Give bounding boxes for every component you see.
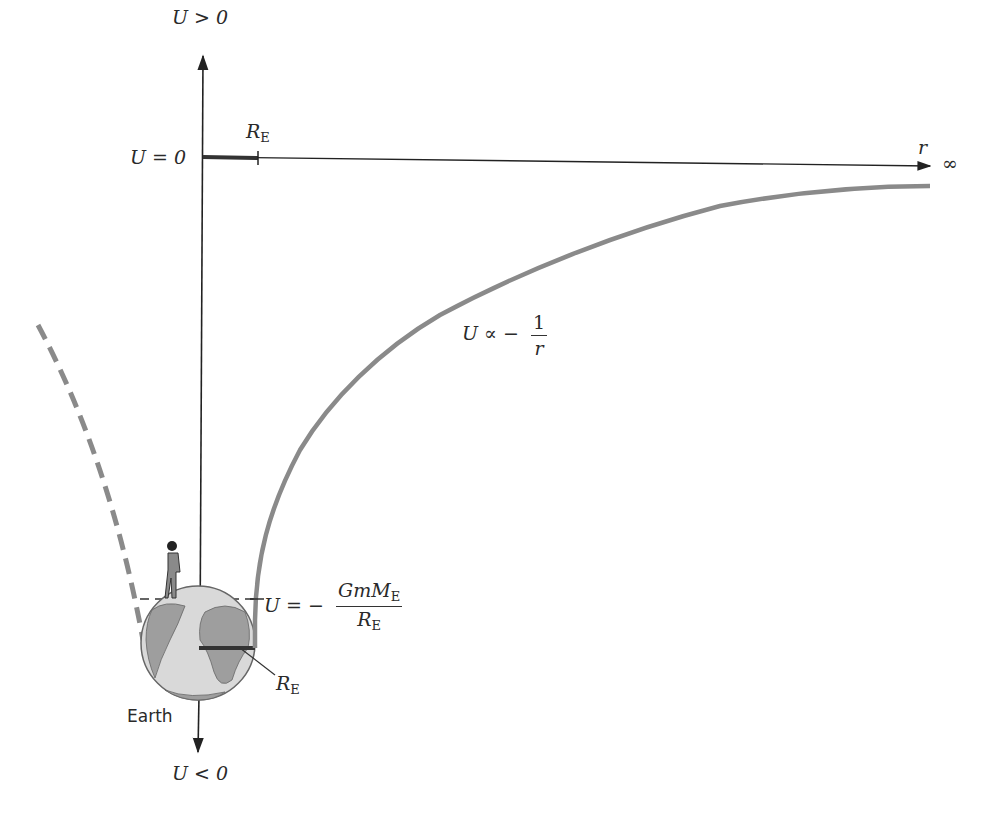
label-surface-potential: U = − GmMERE — [264, 580, 402, 634]
label-re-top: RE — [246, 120, 270, 145]
label-re-bottom: RE — [276, 672, 300, 697]
label-u-zero: U = 0 — [130, 146, 186, 168]
label-earth: Earth — [127, 706, 173, 726]
earth-globe — [141, 586, 255, 700]
label-infinity: ∞ — [942, 152, 958, 174]
label-u-positive: U > 0 — [172, 6, 228, 28]
label-u-negative: U < 0 — [172, 762, 228, 784]
label-proportional: U ∝ − 1r — [462, 312, 547, 359]
re-segment-top — [203, 157, 258, 158]
label-r-axis: r — [918, 136, 927, 158]
potential-diagram — [0, 0, 994, 823]
dashed-curve — [38, 325, 143, 640]
r-axis — [203, 157, 930, 166]
u-axis-up — [200, 56, 203, 640]
